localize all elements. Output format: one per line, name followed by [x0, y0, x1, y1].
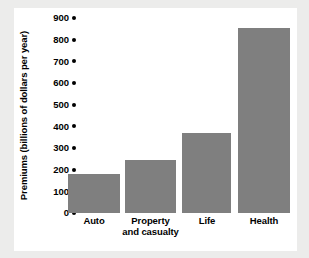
bar-life — [182, 133, 231, 213]
bar-health — [238, 28, 290, 213]
x-axis-label-line1: Life — [177, 216, 237, 227]
x-axis-label-health: Health — [234, 216, 294, 227]
x-axis: Auto Property and casualty Life Health — [0, 216, 309, 256]
x-axis-label-line1: Health — [234, 216, 294, 227]
bar-auto — [68, 174, 120, 213]
x-axis-label-life: Life — [177, 216, 237, 227]
bar-property-and-casualty — [125, 160, 176, 213]
x-axis-label-line2: and casualty — [113, 227, 188, 238]
bar-chart-figure: Premiums (billions of dollars per year) … — [0, 0, 309, 258]
